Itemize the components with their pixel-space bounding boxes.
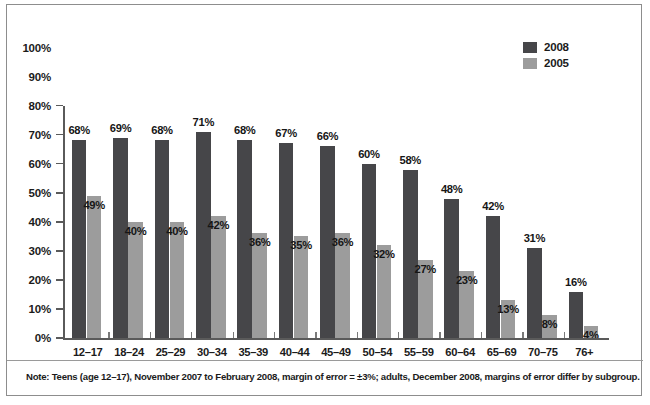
bar-label-2005: 27% <box>409 263 441 275</box>
bar-label-2008: 68% <box>229 124 261 136</box>
bar-label-2005: 42% <box>202 219 234 231</box>
bar-label-2008: 42% <box>477 200 509 212</box>
x-axis-category-label: 25–29 <box>150 346 191 358</box>
legend-label-2005: 2005 <box>544 57 569 69</box>
bar-2008 <box>113 138 128 338</box>
x-axis-separator-tick <box>150 332 151 338</box>
chart-legend: 2008 2005 <box>523 41 569 73</box>
y-axis-tick-label: 0% <box>7 332 51 344</box>
y-axis-tick-mark <box>56 250 63 252</box>
bar-label-2008: 66% <box>312 130 344 142</box>
y-axis-tick-mark <box>56 163 63 165</box>
x-axis-category-label: 50–54 <box>357 346 398 358</box>
legend-item-2005: 2005 <box>523 57 569 69</box>
x-axis-separator-tick <box>274 332 275 338</box>
x-axis-category-label: 12–17 <box>67 346 108 358</box>
y-axis-tick-mark <box>56 105 63 107</box>
bar-label-2008: 68% <box>146 124 178 136</box>
bar-label-2005: 35% <box>285 239 317 251</box>
x-axis-category-label: 35–39 <box>233 346 274 358</box>
bar-label-2005: 36% <box>327 236 359 248</box>
legend-label-2008: 2008 <box>544 41 569 53</box>
legend-item-2008: 2008 <box>523 41 569 53</box>
y-axis-tick-label: 40% <box>7 216 51 228</box>
bar-2005 <box>294 236 309 338</box>
x-axis-separator-tick <box>233 332 234 338</box>
chart-frame: 100%90%80%70%60%50%40%30%20%10%0% 68%49%… <box>6 4 642 396</box>
x-axis-separator-tick <box>522 332 523 338</box>
bar-2005 <box>335 233 350 338</box>
bar-label-2008: 31% <box>518 232 550 244</box>
bar-label-2008: 69% <box>105 122 137 134</box>
bar-label-2008: 58% <box>394 154 426 166</box>
x-axis-category-label: 30–34 <box>191 346 232 358</box>
bar-label-2005: 49% <box>78 199 110 211</box>
bar-2008 <box>403 170 418 338</box>
y-axis-tick-label: 60% <box>7 158 51 170</box>
x-axis-category-label: 40–44 <box>274 346 315 358</box>
bar-2008 <box>486 216 501 338</box>
y-axis-tick-mark <box>56 308 63 310</box>
bar-label-2008: 71% <box>187 116 219 128</box>
x-axis-category-label: 60–64 <box>439 346 480 358</box>
x-axis-category-label: 55–59 <box>398 346 439 358</box>
y-axis-tick-label: 30% <box>7 245 51 257</box>
y-axis-tick-mark <box>56 337 63 339</box>
x-axis-category-label: 65–69 <box>481 346 522 358</box>
bar-label-2005: 36% <box>244 236 276 248</box>
x-axis-separator-tick <box>108 332 109 338</box>
plot-area: 100%90%80%70%60%50%40%30%20%10%0% 68%49%… <box>7 5 643 360</box>
bar-label-2005: 40% <box>161 225 193 237</box>
bar-2005 <box>211 216 226 338</box>
bar-label-2005: 8% <box>533 318 565 330</box>
y-axis-tick-mark <box>56 134 63 136</box>
y-axis-tick-label: 10% <box>7 303 51 315</box>
y-axis-tick-mark <box>56 192 63 194</box>
x-axis-category-label: 45–49 <box>315 346 356 358</box>
bar-2008 <box>155 140 170 338</box>
bar-label-2005: 32% <box>368 248 400 260</box>
bar-2005 <box>252 233 267 338</box>
bar-2008 <box>72 140 87 338</box>
bar-label-2008: 16% <box>560 276 592 288</box>
x-axis-category-label: 70–75 <box>522 346 563 358</box>
bar-label-2005: 23% <box>451 274 483 286</box>
chart-note: Note: Teens (age 12–17), November 2007 t… <box>26 371 626 382</box>
bar-label-2008: 48% <box>436 183 468 195</box>
bar-label-2008: 68% <box>63 124 95 136</box>
x-axis-separator-tick <box>357 332 358 338</box>
bar-label-2005: 13% <box>492 303 524 315</box>
bar-2005 <box>87 196 102 338</box>
note-divider <box>7 360 643 361</box>
bar-label-2008: 60% <box>353 148 385 160</box>
y-axis-tick-mark <box>56 279 63 281</box>
x-axis-separator-tick <box>481 332 482 338</box>
bar-label-2008: 67% <box>270 127 302 139</box>
bar-label-2005: 40% <box>120 225 152 237</box>
x-axis-separator-tick <box>315 332 316 338</box>
y-axis-tick-label: 90% <box>7 71 51 83</box>
bar-2005 <box>170 222 185 338</box>
y-axis-tick-label: 80% <box>7 100 51 112</box>
x-axis-category-label: 76+ <box>564 346 605 358</box>
x-axis-line <box>63 338 609 340</box>
y-axis-tick-label: 20% <box>7 274 51 286</box>
legend-swatch-2008-icon <box>523 42 537 53</box>
y-axis-line <box>63 106 65 338</box>
x-axis-separator-tick <box>564 332 565 338</box>
bar-2008 <box>196 132 211 338</box>
x-axis-separator-tick <box>439 332 440 338</box>
x-axis-separator-tick <box>398 332 399 338</box>
y-axis-tick-mark <box>56 221 63 223</box>
y-axis-tick-label: 50% <box>7 187 51 199</box>
x-axis-category-label: 18–24 <box>108 346 149 358</box>
y-axis-tick-label: 100% <box>7 42 51 54</box>
y-axis-tick-label: 70% <box>7 129 51 141</box>
bar-2008 <box>444 199 459 338</box>
bar-2005 <box>128 222 143 338</box>
legend-swatch-2005-icon <box>523 58 537 69</box>
x-axis-separator-tick <box>191 332 192 338</box>
